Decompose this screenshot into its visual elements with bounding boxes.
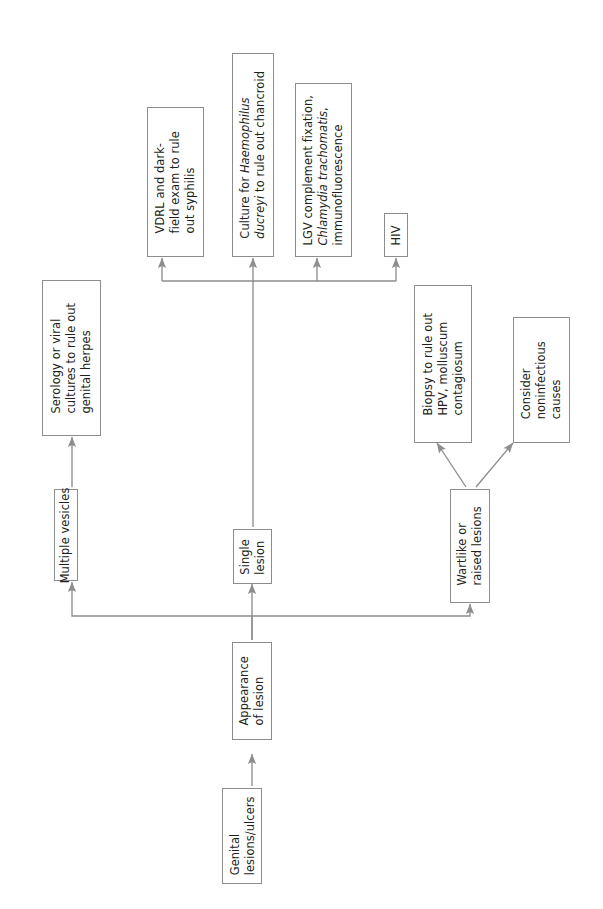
node-vdrl-and-darkfield-exam-label: VDRL and dark- field exam to rule out sy…: [153, 131, 197, 233]
flowchart-canvas: Genital lesions/ulcers Appearance of les…: [0, 0, 603, 909]
node-vdrl-and-darkfield-exam[interactable]: VDRL and dark- field exam to rule out sy…: [147, 107, 204, 257]
node-wartlike-or-raised-lesions-label: Wartlike or raised lesions: [455, 506, 485, 585]
node-multiple-vesicles[interactable]: Multiple vesicles: [54, 489, 78, 581]
node-hiv[interactable]: HIV: [384, 213, 408, 257]
node-culture-for-haemophilus-ducreyi[interactable]: Culture for Haemophilus ducreyi to rule …: [232, 53, 274, 257]
node-hiv-label: HIV: [389, 225, 404, 245]
node-consider-noninfectious-causes-label: Consider noninfectious causes: [519, 341, 563, 419]
node-wartlike-or-raised-lesions[interactable]: Wartlike or raised lesions: [450, 489, 490, 603]
edge-wartlike-to-biopsy: [437, 443, 466, 487]
node-genital-lesions-ulcers-label: Genital lesions/ulcers: [227, 797, 257, 876]
edge-appearance-to-multiple-vesicles: [72, 582, 252, 640]
node-multiple-vesicles-label: Multiple vesicles: [59, 487, 74, 583]
node-lgv-complement-fixation-label: LGV complement fixation, Chlamydia trach…: [301, 95, 345, 245]
edge-wartlike-to-noninfectious: [476, 443, 513, 487]
node-single-lesion-label: Single lesion: [238, 539, 268, 575]
node-biopsy-to-rule-out-hpv-label: Biopsy to rule out HPV, molluscum contag…: [421, 313, 465, 416]
node-consider-noninfectious-causes[interactable]: Consider noninfectious causes: [513, 317, 570, 443]
node-single-lesion[interactable]: Single lesion: [233, 529, 272, 584]
node-serology-or-viral-cultures[interactable]: Serology or viral cultures to rule out g…: [42, 280, 101, 436]
node-genital-lesions-ulcers[interactable]: Genital lesions/ulcers: [222, 788, 262, 884]
node-appearance-of-lesion[interactable]: Appearance of lesion: [232, 642, 272, 740]
node-culture-for-haemophilus-ducreyi-label: Culture for Haemophilus ducreyi to rule …: [238, 71, 268, 239]
node-serology-or-viral-cultures-label: Serology or viral cultures to rule out g…: [49, 303, 93, 414]
node-lgv-complement-fixation[interactable]: LGV complement fixation, Chlamydia trach…: [295, 83, 352, 257]
node-appearance-of-lesion-label: Appearance of lesion: [237, 656, 267, 725]
node-biopsy-to-rule-out-hpv[interactable]: Biopsy to rule out HPV, molluscum contag…: [414, 285, 472, 443]
edge-appearance-to-wartlike: [252, 604, 470, 616]
